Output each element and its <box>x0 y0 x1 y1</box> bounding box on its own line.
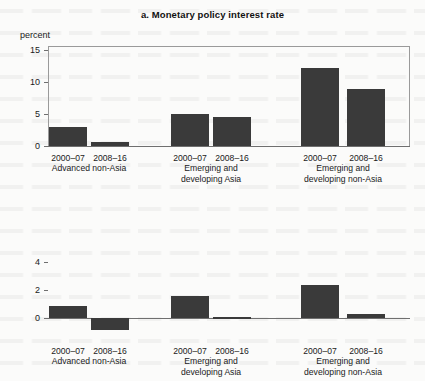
x-axis-period-label: 2008–16 <box>200 153 264 164</box>
bar <box>171 114 209 146</box>
panel-b-ytick-label: 4 <box>18 257 40 267</box>
panel-a-ytick-label: 5 <box>18 109 40 119</box>
panel-b-ytick-label: 2 <box>18 285 40 295</box>
x-axis-period-label: 2008–16 <box>78 346 142 357</box>
bar <box>301 68 339 146</box>
bar <box>171 296 209 318</box>
x-axis-period-label: 2008–16 <box>200 346 264 357</box>
bar <box>347 314 385 318</box>
bar <box>347 89 385 146</box>
panel-a-ytick-label: 0 <box>18 141 40 151</box>
panel-b-ytick-mark <box>44 290 48 291</box>
x-axis-period-label: 2008–16 <box>334 346 398 357</box>
x-axis-group-label: Emerging anddeveloping non-Asia <box>268 163 418 184</box>
bar <box>49 306 87 318</box>
bar <box>301 285 339 318</box>
bar <box>213 317 251 319</box>
panel-a-ytick-mark <box>44 50 48 51</box>
panel-a-ytick-label: 10 <box>18 77 40 87</box>
x-axis-group-label: Emerging anddeveloping Asia <box>136 356 286 377</box>
panel-a-ytick-mark <box>44 114 48 115</box>
panel-a-y-axis-unit: percent <box>20 30 50 40</box>
x-axis-period-label: 2008–16 <box>334 153 398 164</box>
chart-panel-a: a. Monetary policy interest rate percent… <box>0 0 425 190</box>
x-axis-period-label: 2008–16 <box>78 153 142 164</box>
panel-a-zero-line <box>48 146 410 147</box>
bar <box>49 127 87 146</box>
panel-b-ytick-mark <box>44 262 48 263</box>
x-axis-group-label: Emerging anddeveloping non-Asia <box>268 356 418 377</box>
bar <box>91 318 129 330</box>
panel-b-ytick-label: 0 <box>18 313 40 323</box>
panel-a-ytick-mark <box>44 82 48 83</box>
bar <box>91 142 129 146</box>
panel-a-ytick-label: 15 <box>18 45 40 55</box>
chart-panel-b: b. Real interest rate percent 0242000–07… <box>0 190 425 381</box>
bar <box>213 117 251 146</box>
panel-a-title: a. Monetary policy interest rate <box>0 9 425 20</box>
figure-page: a. Monetary policy interest rate percent… <box>0 0 425 381</box>
x-axis-group-label: Emerging anddeveloping Asia <box>136 163 286 184</box>
